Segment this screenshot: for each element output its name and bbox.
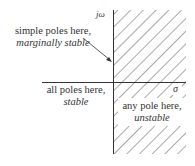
marginal-label-line1: simple poles here, bbox=[8, 25, 98, 37]
unstable-label-line2: unstable bbox=[116, 112, 188, 124]
stable-label-line2: stable bbox=[36, 96, 116, 108]
unstable-label-line1: any pole here, bbox=[116, 100, 188, 112]
sigma-axis-label: σ bbox=[173, 83, 178, 95]
stable-label-line1: all poles here, bbox=[36, 84, 116, 96]
marginal-label-line2: marginally stable bbox=[8, 37, 98, 49]
jw-axis-label: jω bbox=[96, 8, 105, 20]
